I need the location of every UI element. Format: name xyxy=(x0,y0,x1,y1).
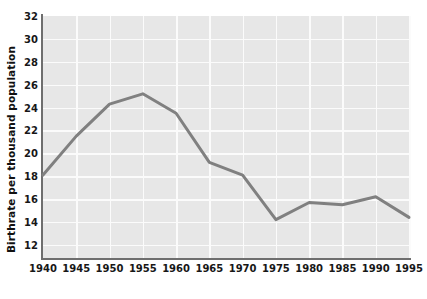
birthrate-line-chart: Birthrate per thousand population 121416… xyxy=(0,0,427,299)
data-series-line xyxy=(0,0,427,299)
series-polyline xyxy=(43,94,409,220)
